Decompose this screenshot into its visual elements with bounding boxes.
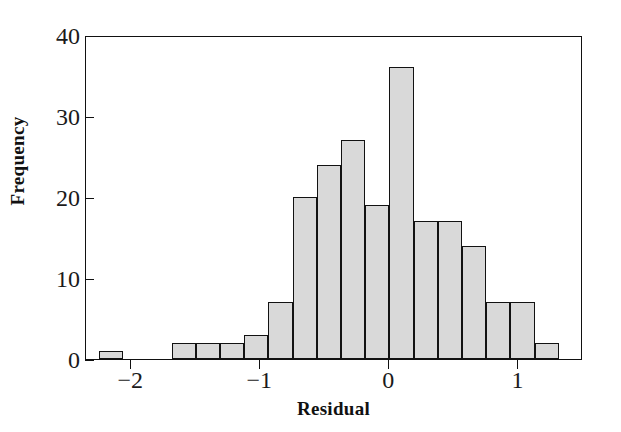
y-tick-label: 10 bbox=[46, 267, 80, 291]
y-tick-mark bbox=[85, 198, 94, 199]
histogram-bar bbox=[535, 343, 559, 359]
y-tick-label: 30 bbox=[46, 105, 80, 129]
histogram-bar bbox=[414, 221, 438, 359]
y-tick-mark bbox=[85, 279, 94, 280]
histogram-bar bbox=[438, 221, 462, 359]
histogram-bar bbox=[196, 343, 220, 359]
y-axis-tick-marks bbox=[85, 36, 95, 360]
histogram-bar bbox=[268, 302, 292, 359]
histogram-bar bbox=[220, 343, 244, 359]
histogram-bar bbox=[99, 351, 123, 359]
histogram-bar bbox=[365, 205, 389, 359]
histogram-bar bbox=[293, 197, 317, 359]
histogram-figure: 010203040 −2−101 Frequency Residual bbox=[0, 0, 621, 432]
y-tick-mark bbox=[85, 117, 94, 118]
y-tick-label: 0 bbox=[46, 348, 80, 372]
histogram-bar bbox=[510, 302, 534, 359]
y-tick-label: 20 bbox=[46, 186, 80, 210]
y-axis-tick-labels: 010203040 bbox=[36, 36, 80, 360]
histogram-bar bbox=[341, 140, 365, 359]
x-tick-label: 1 bbox=[492, 368, 542, 392]
y-axis-title: Frequency bbox=[7, 91, 29, 231]
x-tick-label: −2 bbox=[105, 368, 155, 392]
histogram-bar bbox=[486, 302, 510, 359]
histogram-bar bbox=[317, 165, 341, 359]
histogram-bar bbox=[462, 246, 486, 359]
bars-container bbox=[86, 37, 581, 359]
histogram-bar bbox=[172, 343, 196, 359]
x-tick-label: 0 bbox=[363, 368, 413, 392]
x-axis-tick-labels: −2−101 bbox=[85, 368, 582, 398]
histogram-bar bbox=[244, 335, 268, 359]
y-tick-label: 40 bbox=[46, 24, 80, 48]
x-axis-title: Residual bbox=[85, 398, 582, 420]
plot-area bbox=[85, 36, 582, 360]
histogram-bar bbox=[389, 67, 413, 359]
x-tick-label: −1 bbox=[234, 368, 284, 392]
